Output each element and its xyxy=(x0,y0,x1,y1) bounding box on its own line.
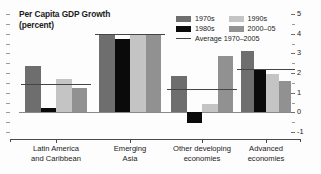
y-tick-minor xyxy=(292,122,295,123)
bar-group-bars xyxy=(25,14,87,132)
category-label-line2: Asia xyxy=(114,154,147,164)
category-tick-2 xyxy=(130,139,131,143)
left-axis-tick xyxy=(6,103,10,104)
left-axis-ticks xyxy=(6,14,18,154)
y-tick-0 xyxy=(291,112,295,113)
bar-group-1 xyxy=(25,14,87,132)
left-axis-tick xyxy=(6,14,10,15)
category-axis-end-tick-2 xyxy=(300,139,301,142)
bar-slot xyxy=(146,14,162,132)
y-tick-minor xyxy=(292,63,295,64)
y-tick-label-5: 5 xyxy=(297,10,301,17)
bar-1970s-g4 xyxy=(241,51,254,112)
bar-1970s-g2 xyxy=(99,35,115,113)
category-tick-4 xyxy=(266,139,267,143)
left-axis-tick xyxy=(6,63,10,64)
bar-group-4 xyxy=(241,14,291,132)
average-line-g1 xyxy=(21,84,91,85)
bar-slot xyxy=(41,14,57,132)
bar-1980s-g4 xyxy=(254,69,267,112)
left-axis-tick xyxy=(6,44,10,45)
category-label-line2: economies xyxy=(173,154,231,164)
category-axis-line xyxy=(10,139,300,140)
bar-1980s-g2 xyxy=(115,39,131,113)
y-tick-3 xyxy=(291,53,295,54)
y-tick-label-2: 2 xyxy=(297,69,301,76)
left-axis-tick xyxy=(6,24,10,25)
y-tick-label-3: 3 xyxy=(297,50,301,57)
bar-group-2 xyxy=(99,14,161,132)
category-axis-labels: Latin Americaand CaribbeanEmergingAsiaOt… xyxy=(10,144,300,172)
bar-200005-g1 xyxy=(72,88,88,113)
y-tick-minor xyxy=(292,24,295,25)
category-label-3: Other developingeconomies xyxy=(173,144,231,164)
y-tick-label-4: 4 xyxy=(297,30,301,37)
category-label-line2: economies xyxy=(248,154,285,164)
y-tick-minor xyxy=(292,103,295,104)
left-axis-tick xyxy=(6,53,10,54)
bar-slot xyxy=(266,14,279,132)
bar-group-bars xyxy=(241,14,291,132)
bar-slot xyxy=(279,14,292,132)
y-tick-minor xyxy=(292,83,295,84)
value-axis: 543210-1 xyxy=(291,14,321,132)
left-axis-tick xyxy=(6,73,10,74)
left-axis-tick xyxy=(6,93,10,94)
y-tick-minor xyxy=(292,44,295,45)
bar-group-bars xyxy=(99,14,161,132)
y-tick--1 xyxy=(291,132,295,133)
bar-1980s-g3 xyxy=(187,112,203,123)
left-axis-tick xyxy=(6,34,10,35)
category-label-line1: Emerging xyxy=(114,144,147,154)
category-label-4: Advancedeconomies xyxy=(248,144,285,164)
bar-slot xyxy=(202,14,218,132)
bar-slot xyxy=(254,14,267,132)
y-tick-label-1: 1 xyxy=(297,89,301,96)
average-line-g3 xyxy=(167,89,237,90)
y-tick-4 xyxy=(291,34,295,35)
category-tick-1 xyxy=(56,139,57,143)
bar-slot xyxy=(56,14,72,132)
left-axis-tick xyxy=(6,132,10,133)
average-line-g2 xyxy=(95,34,165,35)
chart-container: Per Capita GDP Growth (percent) 1970s 19… xyxy=(0,0,321,174)
y-tick-label-0: 0 xyxy=(297,109,301,116)
y-tick-2 xyxy=(291,73,295,74)
category-label-line2: and Caribbean xyxy=(31,154,81,164)
bar-1970s-g1 xyxy=(25,66,41,112)
bar-slot xyxy=(218,14,234,132)
category-label-1: Latin Americaand Caribbean xyxy=(31,144,81,164)
bar-slot xyxy=(25,14,41,132)
category-axis-end-tick-1 xyxy=(10,139,11,142)
y-tick-5 xyxy=(291,14,295,15)
left-axis-tick xyxy=(6,83,10,84)
category-label-line1: Other developing xyxy=(173,144,231,154)
category-label-2: EmergingAsia xyxy=(114,144,147,164)
bar-slot xyxy=(130,14,146,132)
bar-1970s-g3 xyxy=(171,76,187,112)
bar-200005-g2 xyxy=(146,35,162,113)
bar-1990s-g4 xyxy=(266,74,279,112)
category-tick-3 xyxy=(202,139,203,143)
y-tick-label--1: -1 xyxy=(297,128,304,135)
bar-slot xyxy=(72,14,88,132)
bar-200005-g3 xyxy=(218,56,234,112)
bar-slot xyxy=(115,14,131,132)
category-label-line1: Latin America xyxy=(31,144,81,154)
left-axis-tick xyxy=(6,122,10,123)
bar-group-3 xyxy=(171,14,233,132)
y-tick-1 xyxy=(291,93,295,94)
left-axis-tick xyxy=(6,112,10,113)
bar-1990s-g2 xyxy=(130,35,146,113)
category-label-line1: Advanced xyxy=(248,144,285,154)
bar-1980s-g1 xyxy=(41,108,57,112)
bar-slot xyxy=(171,14,187,132)
average-line-g4 xyxy=(237,69,295,70)
bar-group-bars xyxy=(171,14,233,132)
bar-slot xyxy=(99,14,115,132)
bar-1990s-g3 xyxy=(202,104,218,112)
bar-slot xyxy=(187,14,203,132)
bar-200005-g4 xyxy=(279,81,292,112)
plot-area xyxy=(19,14,291,132)
bar-slot xyxy=(241,14,254,132)
